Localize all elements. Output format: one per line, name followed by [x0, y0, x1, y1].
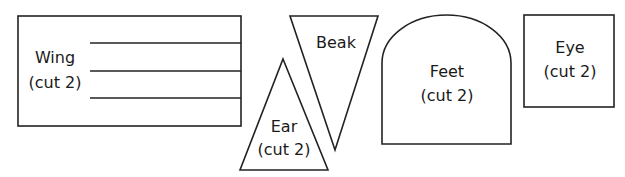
wing-piece: Wing (cut 2): [18, 16, 241, 126]
ear-label: Ear: [271, 117, 298, 136]
wing-label: Wing: [35, 48, 75, 67]
feet-label: Feet: [430, 62, 464, 81]
ear-note: (cut 2): [258, 140, 311, 159]
eye-piece: Eye (cut 2): [524, 15, 614, 107]
wing-note: (cut 2): [29, 73, 82, 92]
eye-note: (cut 2): [544, 62, 597, 81]
eye-label: Eye: [555, 38, 584, 57]
eye-outline: [524, 15, 614, 107]
cutout-template: Wing (cut 2) Beak Ear (cut 2) Feet (cut …: [0, 0, 625, 177]
beak-label: Beak: [316, 33, 357, 52]
feet-piece: Feet (cut 2): [382, 15, 511, 144]
feet-note: (cut 2): [421, 86, 474, 105]
